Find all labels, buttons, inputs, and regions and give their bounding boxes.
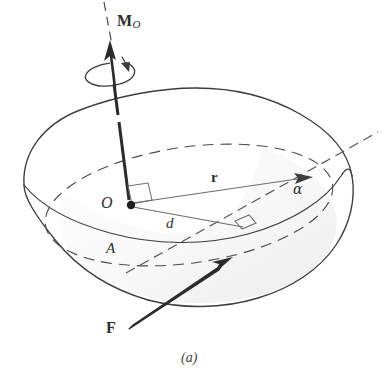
- moment-vector-symbol: M: [117, 12, 132, 29]
- position-vector-label: r: [211, 170, 218, 185]
- curl-arrow-head: [121, 62, 130, 72]
- moment-vector-label: MO: [117, 13, 141, 30]
- angle-label: α: [293, 182, 302, 196]
- axis-dashed-extension: [104, 2, 112, 45]
- moment-arm-label: d: [166, 216, 174, 231]
- force-vector-label: F: [106, 320, 116, 336]
- rotation-curl-arrow: [84, 57, 136, 88]
- figure-container: MO O r d α A F (a): [0, 0, 389, 378]
- figure-caption: (a): [181, 351, 197, 365]
- plane-area-label: A: [106, 241, 115, 256]
- origin-point-dot: [127, 201, 135, 209]
- moment-arrow-head: [104, 40, 116, 61]
- moment-vector-subscript: O: [133, 18, 141, 30]
- moment-diagram-svg: [0, 0, 389, 378]
- origin-label: O: [101, 195, 113, 211]
